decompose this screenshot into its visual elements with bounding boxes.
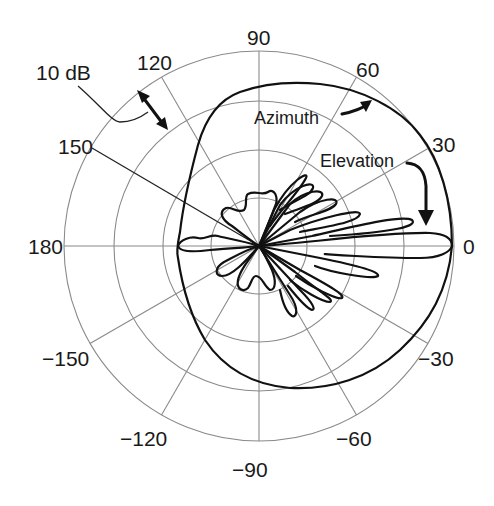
label-m60: −60 xyxy=(336,427,372,450)
spoke-120 xyxy=(162,77,260,246)
leader-150 xyxy=(92,148,259,246)
label-60: 60 xyxy=(356,58,379,81)
spoke-m150 xyxy=(90,246,259,344)
label-m90: −90 xyxy=(232,458,268,481)
label-30: 30 xyxy=(432,133,455,156)
polar-plot-svg: 0 30 60 90 120 150 180 −150 −120 −90 −60… xyxy=(0,0,494,506)
arrow-head-up xyxy=(137,90,150,103)
elevation-arrow-head xyxy=(418,210,434,226)
polar-diagram: 0 30 60 90 120 150 180 −150 −120 −90 −60… xyxy=(0,0,494,506)
label-120: 120 xyxy=(137,51,172,74)
azimuth-label: Azimuth xyxy=(254,108,319,128)
scale-label: 10 dB xyxy=(36,61,91,84)
elevation-label: Elevation xyxy=(320,151,394,171)
origin-dot xyxy=(257,244,261,248)
azimuth-arrow-head xyxy=(360,100,372,112)
elevation-arrow-icon xyxy=(407,163,426,218)
spoke-m120 xyxy=(162,246,260,415)
label-m30: −30 xyxy=(418,347,454,370)
label-150: 150 xyxy=(58,135,93,158)
label-m120: −120 xyxy=(120,427,167,450)
label-180: 180 xyxy=(28,235,63,258)
label-0: 0 xyxy=(463,235,475,258)
label-m150: −150 xyxy=(42,347,89,370)
label-90: 90 xyxy=(247,26,270,49)
scale-arrow xyxy=(137,90,168,130)
